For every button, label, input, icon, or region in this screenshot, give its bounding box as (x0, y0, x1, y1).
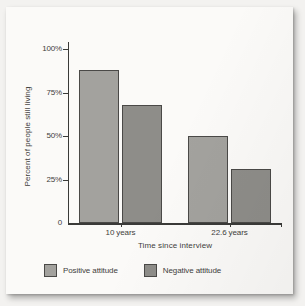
x-axis-title: Time since interview (68, 241, 282, 250)
scanned-paper-card: 100% 75% 50% 25% 0 Percent of people sti… (6, 7, 293, 294)
x-tick-mark-group-2 (230, 223, 231, 227)
y-axis-line (68, 42, 69, 224)
x-axis-line (68, 223, 282, 225)
y-tick-label-0: 0 (58, 218, 62, 227)
x-tick-mark-group-1 (121, 223, 122, 227)
y-axis-title: Percent of people still living (23, 67, 32, 207)
legend-label-positive: Positive attitude (63, 266, 118, 275)
legend-label-negative: Negative attitude (163, 266, 221, 275)
y-tick-label-50: 50% (47, 131, 62, 140)
bar-negative-10-years (122, 105, 162, 223)
x-tick-mark-end (281, 223, 282, 227)
bar-positive-22-6-years (188, 136, 228, 223)
legend-item-positive: Positive attitude (44, 264, 118, 277)
bar-positive-10-years (79, 70, 119, 223)
chart-legend: Positive attitude Negative attitude (44, 264, 259, 277)
y-tick-mark-25 (63, 180, 69, 181)
legend-swatch-positive (44, 264, 57, 277)
legend-item-negative: Negative attitude (144, 264, 221, 277)
bar-chart: 100% 75% 50% 25% 0 Percent of people sti… (6, 7, 293, 294)
y-tick-mark-100 (63, 49, 69, 50)
y-tick-label-75: 75% (47, 88, 62, 97)
legend-swatch-negative (144, 264, 157, 277)
y-tick-label-25: 25% (47, 175, 62, 184)
chart-page: 100% 75% 50% 25% 0 Percent of people sti… (0, 0, 305, 306)
x-category-label-10-years: 10 years (79, 228, 162, 237)
x-category-label-22-6-years: 22.6 years (188, 228, 271, 237)
bar-negative-22-6-years (231, 169, 271, 223)
y-tick-label-100: 100% (42, 44, 62, 53)
y-tick-mark-75 (63, 93, 69, 94)
y-tick-mark-50 (63, 136, 69, 137)
